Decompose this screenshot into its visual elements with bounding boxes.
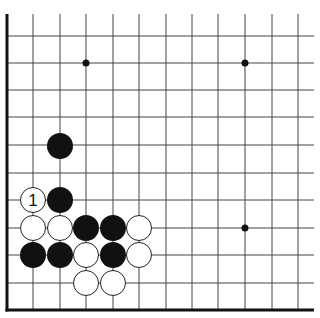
black-stone (100, 242, 126, 268)
white-stone (74, 243, 99, 268)
white-stone (48, 216, 73, 241)
black-stone (73, 215, 99, 241)
go-board: 1 (0, 0, 320, 318)
white-stone (101, 271, 126, 296)
star-point-icon (242, 60, 249, 67)
star-point-icon (242, 225, 249, 232)
white-stone (127, 243, 152, 268)
black-stone (47, 242, 73, 268)
white-stone (21, 216, 46, 241)
black-stone (20, 242, 46, 268)
black-stone (100, 215, 126, 241)
white-stone: 1 (21, 188, 46, 213)
black-stone (47, 187, 73, 213)
white-stone (74, 271, 99, 296)
white-stone (127, 216, 152, 241)
move-number-label: 1 (28, 191, 37, 210)
star-point-icon (83, 60, 90, 67)
black-stone (47, 133, 73, 159)
board-edges (6, 14, 315, 312)
